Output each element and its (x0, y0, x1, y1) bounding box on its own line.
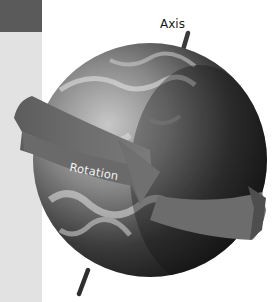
earth-diagram (0, 0, 280, 302)
axis-label: Axis (160, 17, 185, 31)
axis-rod-bottom (79, 270, 88, 294)
